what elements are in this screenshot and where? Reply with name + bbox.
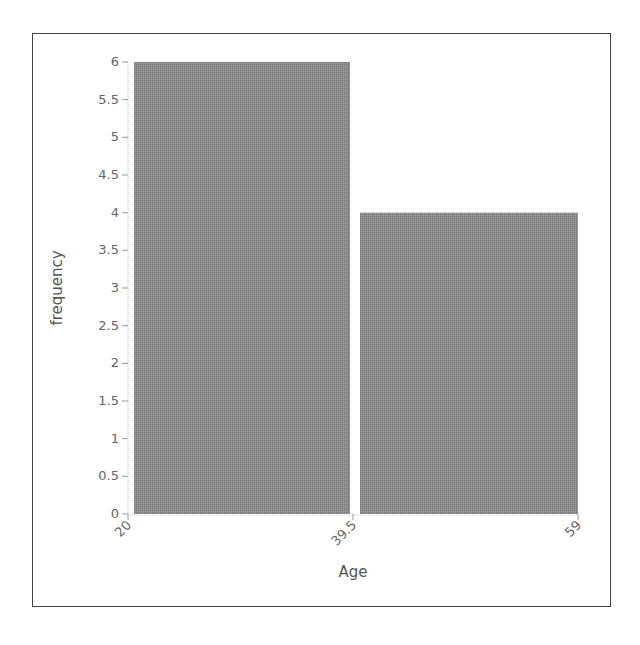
histogram-bar — [134, 62, 350, 514]
y-tick-label: 1.5 — [98, 393, 119, 408]
y-axis: 00.511.522.533.544.555.56 — [98, 54, 128, 521]
y-tick-label: 4.5 — [98, 167, 119, 182]
x-tick-label: 39.5 — [328, 518, 359, 549]
bars — [134, 62, 578, 514]
y-tick-label: 5.5 — [98, 92, 119, 107]
x-axis: 2039.559 — [112, 514, 584, 549]
y-tick-label: 1 — [111, 431, 119, 446]
y-tick-label: 0.5 — [98, 468, 119, 483]
y-tick-label: 4 — [111, 205, 119, 220]
x-tick-label: 59 — [562, 518, 584, 540]
y-tick-label: 0 — [111, 506, 119, 521]
y-tick-label: 3 — [111, 280, 119, 295]
y-axis-title: frequency — [48, 250, 66, 325]
y-tick-label: 2.5 — [98, 318, 119, 333]
y-tick-label: 5 — [111, 129, 119, 144]
histogram-chart: 00.511.522.533.544.555.56 2039.559 frequ… — [0, 0, 640, 645]
x-axis-title: Age — [338, 563, 367, 581]
y-tick-label: 3.5 — [98, 242, 119, 257]
y-tick-label: 6 — [111, 54, 119, 69]
y-tick-label: 2 — [111, 355, 119, 370]
histogram-bar — [360, 213, 578, 514]
